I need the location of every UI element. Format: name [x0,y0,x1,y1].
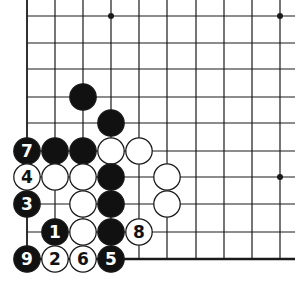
white-stone-icon [70,164,96,190]
move-number-label: 4 [21,167,33,187]
black-stone-icon [70,84,96,110]
move-number-label: 8 [133,222,145,242]
move-number-label: 9 [21,249,33,269]
black-stone-icon [98,219,124,245]
move-number-label: 6 [77,249,89,269]
move-number-label: 3 [21,194,33,214]
white-stone-icon [154,191,180,217]
black-stone-icon [42,138,68,164]
white-stone-move-4: 4 [14,164,40,190]
white-stone-move-6: 6 [70,246,96,272]
white-stone-icon [98,138,124,164]
black-stone-icon [70,138,96,164]
white-stone [126,138,152,164]
black-stone-icon [98,191,124,217]
star-point-icon [277,174,283,180]
black-stone-move-9: 9 [14,246,40,272]
black-stone [70,138,96,164]
black-stone [42,138,68,164]
white-stone [98,138,124,164]
move-number-label: 5 [105,249,117,269]
black-stone [98,164,124,190]
move-number-label: 7 [21,141,33,161]
black-stone-move-7: 7 [14,138,40,164]
star-point-icon [108,13,114,19]
white-stone-icon [154,164,180,190]
black-stone [98,191,124,217]
white-stone [154,191,180,217]
black-stone [70,84,96,110]
black-stone-move-5: 5 [98,246,124,272]
white-stone-icon [42,164,68,190]
white-stone [154,164,180,190]
black-stone [98,110,124,136]
white-stone-move-2: 2 [42,246,68,272]
white-stone [70,191,96,217]
white-stone [70,219,96,245]
white-stone [70,164,96,190]
move-number-label: 1 [49,222,61,242]
white-stone-icon [70,219,96,245]
black-stone [98,219,124,245]
white-stone [42,164,68,190]
black-stone-icon [98,164,124,190]
go-board: 743189265 [0,0,299,281]
white-stone-move-8: 8 [126,219,152,245]
black-stone-icon [98,110,124,136]
black-stone-move-3: 3 [14,191,40,217]
white-stone-icon [70,191,96,217]
white-stone-icon [126,138,152,164]
star-point-icon [277,13,283,19]
move-number-label: 2 [49,249,61,269]
black-stone-move-1: 1 [42,219,68,245]
